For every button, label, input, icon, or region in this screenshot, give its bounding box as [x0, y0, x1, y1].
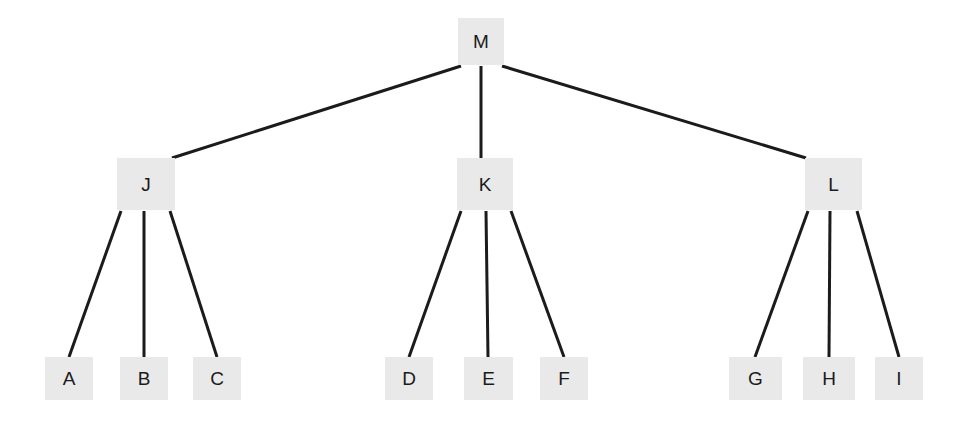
- tree-node-k[interactable]: K: [457, 158, 513, 210]
- node-label-d: D: [402, 369, 416, 388]
- tree-node-c[interactable]: C: [193, 357, 241, 400]
- node-label-k: K: [479, 175, 492, 194]
- edge-m-l: [502, 66, 806, 158]
- edge-k-f: [511, 211, 564, 357]
- node-label-f: F: [558, 369, 570, 388]
- tree-node-m[interactable]: M: [458, 18, 504, 65]
- edge-j-c: [170, 211, 217, 357]
- tree-node-i[interactable]: I: [875, 357, 923, 400]
- edge-l-i: [857, 211, 899, 357]
- tree-node-f[interactable]: F: [540, 357, 588, 400]
- node-label-g: G: [748, 369, 763, 388]
- tree-node-l[interactable]: L: [805, 158, 862, 210]
- tree-node-a[interactable]: A: [45, 357, 93, 400]
- tree-node-j[interactable]: J: [117, 158, 175, 210]
- tree-node-d[interactable]: D: [385, 357, 433, 400]
- tree-node-e[interactable]: E: [464, 357, 513, 400]
- edge-j-a: [69, 211, 121, 357]
- node-label-c: C: [210, 369, 224, 388]
- node-label-b: B: [138, 369, 151, 388]
- tree-node-h[interactable]: H: [803, 357, 855, 400]
- tree-node-b[interactable]: B: [120, 357, 168, 400]
- node-label-i: I: [896, 369, 901, 388]
- edge-l-h: [829, 211, 830, 357]
- node-label-h: H: [822, 369, 836, 388]
- node-label-l: L: [828, 175, 839, 194]
- node-label-a: A: [63, 369, 76, 388]
- edges-group: [69, 66, 899, 357]
- node-label-m: M: [473, 32, 489, 51]
- edge-l-g: [755, 211, 808, 357]
- tree-diagram: MJKLABCDEFGHI: [0, 0, 980, 427]
- node-label-j: J: [141, 175, 151, 194]
- tree-node-g[interactable]: G: [729, 357, 782, 400]
- edge-k-d: [409, 211, 461, 357]
- edge-m-j: [172, 66, 461, 158]
- edge-k-e: [486, 211, 488, 357]
- node-label-e: E: [482, 369, 495, 388]
